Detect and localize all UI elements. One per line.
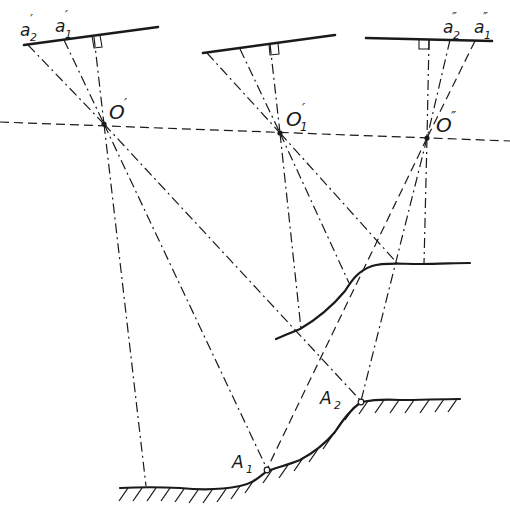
ground-point-a2 [358,399,364,405]
label-a2-left: a 2 ′ [20,11,37,44]
svg-text:O: O [436,113,452,137]
svg-text:1: 1 [65,28,72,41]
photogrammetry-diagram: .film { stroke: #1a1a1a; stroke-width: 2… [0,0,510,518]
label-A2: A 2 [319,388,341,412]
camera-middle [203,35,397,329]
svg-text:1: 1 [484,29,491,42]
label-a2-right: a 2 ″ [443,9,460,42]
svg-text:a: a [55,16,65,36]
film-plane-left [24,27,158,45]
svg-text:1: 1 [300,120,308,134]
label-a1-right: a 1 ″ [474,9,491,42]
svg-text:O: O [109,100,125,124]
ground-surface-profile [120,399,460,489]
svg-text:″: ″ [483,9,488,24]
label-o-right: O ″ [436,108,457,137]
camera-left [24,27,361,486]
svg-text:″: ″ [452,9,457,24]
label-o-middle: O 1 ′ [286,100,308,134]
svg-text:2: 2 [334,399,341,412]
svg-text:1: 1 [246,463,253,476]
svg-text:′: ′ [65,7,68,22]
svg-text:′: ′ [30,11,33,26]
svg-text:′: ′ [124,95,128,111]
svg-text:′: ′ [302,100,306,116]
svg-text:2: 2 [453,29,460,42]
svg-text:A: A [319,388,332,408]
base-line [0,122,510,141]
svg-text:2: 2 [30,31,37,44]
svg-text:a: a [20,20,30,40]
label-a1-left: a 1 ′ [55,7,72,41]
label-o-left: O ′ [109,95,128,124]
label-A1: A 1 [231,452,253,476]
svg-text:A: A [231,452,244,472]
camera-right [267,38,492,469]
model-surface-profile [276,263,470,339]
ground-point-a1 [264,467,270,473]
svg-text:″: ″ [451,108,457,124]
